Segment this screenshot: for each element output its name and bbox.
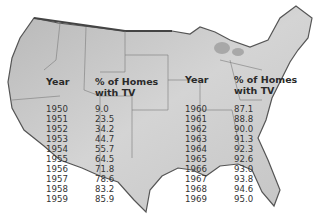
table-cell-pct: 85.9: [95, 194, 114, 204]
right-pct-header-line2: with TV: [234, 85, 274, 96]
table-cell-year: 1962: [185, 124, 207, 134]
left-pct-column: 9.0 23.5 34.2 44.7 55.7 64.5 71.8 78.6 8…: [95, 104, 114, 204]
table-cell-pct: 34.2: [95, 124, 114, 134]
table-cell-pct: 71.8: [95, 164, 114, 174]
table-cell-year: 1964: [185, 144, 207, 154]
table-cell-year: 1960: [185, 104, 207, 114]
table-cell-pct: 93.0: [234, 164, 253, 174]
table-cell-year: 1963: [185, 134, 207, 144]
table-cell-pct: 55.7: [95, 144, 114, 154]
right-pct-header-line1: % of Homes: [234, 74, 297, 85]
table-cell-pct: 90.0: [234, 124, 253, 134]
table-cell-pct: 44.7: [95, 134, 114, 144]
table-cell-year: 1965: [185, 154, 207, 164]
left-pct-header-line2: with TV: [95, 87, 135, 98]
table-cell-pct: 92.3: [234, 144, 253, 154]
table-cell-year: 1956: [46, 164, 68, 174]
table-cell-year: 1950: [46, 104, 68, 114]
right-year-header: Year: [185, 74, 209, 85]
table-cell-year: 1966: [185, 164, 207, 174]
table-cell-year: 1957: [46, 174, 68, 184]
table-cell-pct: 78.6: [95, 174, 114, 184]
table-cell-year: 1961: [185, 114, 207, 124]
table-cell-year: 1952: [46, 124, 68, 134]
table-cell-pct: 93.8: [234, 174, 253, 184]
table-cell-year: 1951: [46, 114, 68, 124]
table-cell-year: 1954: [46, 144, 68, 154]
table-cell-pct: 92.6: [234, 154, 253, 164]
table-cell-pct: 64.5: [95, 154, 114, 164]
table-cell-year: 1953: [46, 134, 68, 144]
table-cell-pct: 83.2: [95, 184, 114, 194]
table-cell-year: 1958: [46, 184, 68, 194]
left-pct-header-line1: % of Homes: [95, 76, 158, 87]
table-cell-year: 1955: [46, 154, 68, 164]
left-year-header: Year: [46, 76, 70, 87]
table-cell-pct: 23.5: [95, 114, 114, 124]
right-year-column: 1960 1961 1962 1963 1964 1965 1966 1967 …: [185, 104, 207, 204]
table-cell-pct: 91.3: [234, 134, 253, 144]
right-pct-column: 87.1 88.8 90.0 91.3 92.3 92.6 93.0 93.8 …: [234, 104, 253, 204]
table-cell-year: 1968: [185, 184, 207, 194]
table-cell-year: 1969: [185, 194, 207, 204]
left-year-column: 1950 1951 1952 1953 1954 1955 1956 1957 …: [46, 104, 68, 204]
table-cell-pct: 9.0: [95, 104, 114, 114]
table-cell-pct: 87.1: [234, 104, 253, 114]
table-cell-year: 1967: [185, 174, 207, 184]
table-cell-pct: 94.6: [234, 184, 253, 194]
table-cell-pct: 88.8: [234, 114, 253, 124]
table-cell-year: 1959: [46, 194, 68, 204]
table-cell-pct: 95.0: [234, 194, 253, 204]
